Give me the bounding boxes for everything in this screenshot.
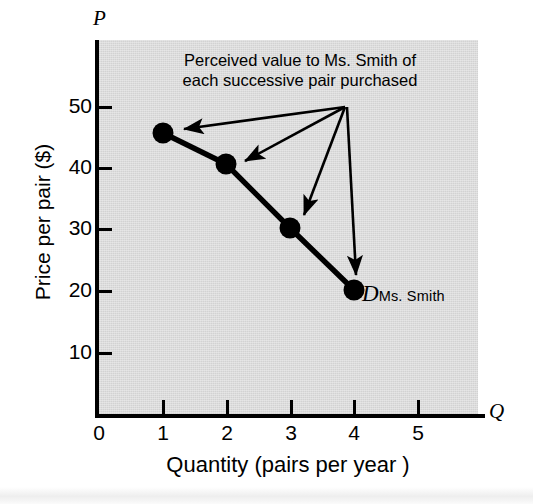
x-tick-2 [226,400,229,414]
x-tick-4 [353,400,356,414]
y-tick-label-30: 30 [50,217,92,238]
x-tick-label-2: 2 [210,421,244,444]
y-tick-label-50: 50 [50,95,92,116]
y-axis-title: Price per pair ($) [31,92,55,352]
demand-curve-label-symbol: D [362,281,379,306]
x-axis-line [95,414,485,418]
x-tick-label-4: 4 [337,421,371,444]
y-tick-50 [99,106,112,109]
y-tick-label-40: 40 [50,156,92,177]
annotation-caption: Perceived value to Ms. Smith of each suc… [150,50,450,90]
x-axis-symbol: Q [489,399,505,424]
x-tick-1 [162,400,165,414]
x-tick-label-1: 1 [146,421,180,444]
y-tick-10 [99,352,112,355]
x-tick-3 [290,400,293,414]
plot-area [98,40,478,415]
y-tick-20 [99,290,112,293]
y-tick-40 [99,167,112,170]
y-tick-30 [99,228,112,231]
scan-edge-artifact [0,487,533,504]
annotation-caption-line-2: each successive pair purchased [150,70,450,90]
annotation-caption-line-1: Perceived value to Ms. Smith of [150,50,450,70]
demand-curve-label-subscript: Ms. Smith [379,288,445,304]
y-tick-label-20: 20 [50,279,92,300]
figure-canvas: P Q 50 40 30 20 10 0 1 2 3 4 5 Price per… [0,0,533,504]
x-tick-label-3: 3 [274,421,308,444]
x-tick-label-5: 5 [401,421,435,444]
y-tick-label-10: 10 [50,341,92,362]
x-axis-title: Quantity (pairs per year ) [98,452,478,478]
y-axis-symbol: P [93,6,106,31]
x-tick-label-0: 0 [82,421,116,444]
demand-curve-label: DMs. Smith [362,281,445,307]
x-tick-5 [417,400,420,414]
